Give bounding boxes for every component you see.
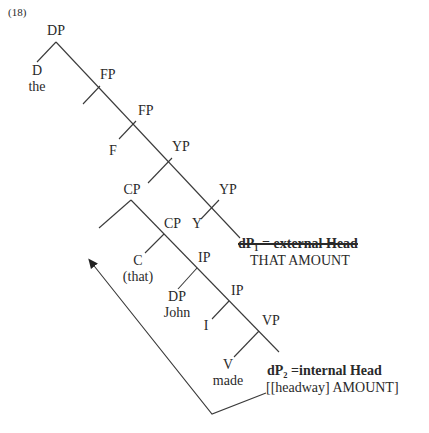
internal-head-value: [[headway] AMOUNT] [266,380,399,396]
example-number: (18) [8,4,26,20]
internal-head-label: dP₂ =internal Head [267,363,382,379]
spine-main [56,42,240,238]
external-head-label: dP₁ = external Head [238,236,358,252]
node-ip2: IP [231,283,243,299]
node-y: Y [192,216,202,232]
branch-dp-john [178,268,197,289]
branch-fp1-left [83,86,100,104]
word-john: John [164,305,190,321]
branch-f [119,121,136,139]
branch-d [37,42,56,62]
branch-cp-left [99,200,131,228]
word-the: the [28,79,45,95]
node-fp2: FP [138,103,154,119]
node-ip1: IP [198,250,210,266]
node-dp-root: DP [47,23,65,39]
node-fp1: FP [100,67,116,83]
node-v: V [223,357,233,373]
branch-i [212,301,229,319]
node-yp2: YP [219,182,237,198]
branch-c [145,234,164,253]
node-d: D [32,63,42,79]
node-f: F [109,143,117,159]
node-dp-john: DP [168,289,186,305]
branch-cp [148,158,172,183]
node-cp1: CP [123,182,140,198]
external-head-value: THAT AMOUNT [250,253,350,269]
node-cp2: CP [164,216,181,232]
node-vp: VP [262,313,280,329]
branch-y [201,200,219,219]
word-made: made [213,373,243,389]
node-yp1: YP [172,139,190,155]
word-that: (that) [123,269,153,285]
node-i: I [204,318,209,334]
branch-v [234,331,259,357]
node-c: C [133,253,142,269]
